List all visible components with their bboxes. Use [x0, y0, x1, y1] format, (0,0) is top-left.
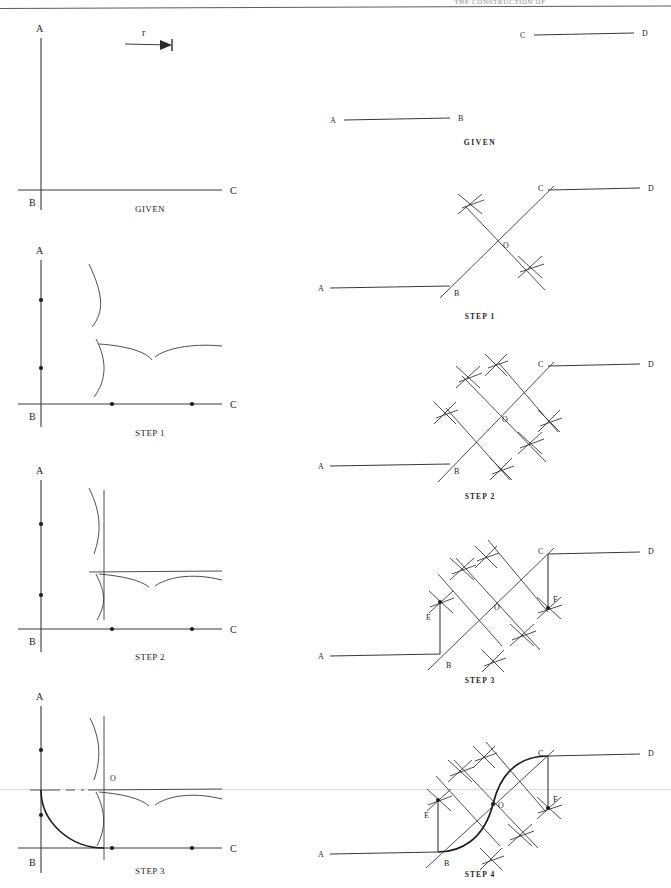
label-B: B: [446, 661, 451, 670]
label-B: B: [29, 636, 36, 647]
label-A: A: [318, 652, 324, 661]
label-B: B: [454, 467, 459, 476]
label-C: C: [538, 184, 543, 193]
figure-left-step3: A B C O: [0, 688, 300, 873]
caption-right-given: GIVEN: [420, 138, 540, 147]
label-B: B: [29, 197, 36, 208]
label-center-O: O: [494, 603, 500, 612]
label-A: A: [330, 116, 336, 125]
figure-left-step2: A B C: [0, 462, 300, 652]
label-D: D: [642, 29, 648, 38]
label-center-O: O: [498, 801, 504, 810]
document-page: THE CONSTRUCTION OF A B C r GIVEN: [0, 0, 671, 888]
label-E: E: [424, 811, 429, 820]
figure-right-step3: A B C D E F O: [310, 520, 671, 675]
label-C: C: [538, 547, 543, 556]
label-B: B: [444, 859, 449, 868]
page-header-rule: [0, 5, 671, 9]
caption-right-step3: STEP 3: [420, 676, 540, 685]
label-E: E: [426, 613, 431, 622]
label-D: D: [648, 547, 654, 556]
figure-left-step1: A B C: [0, 242, 300, 427]
label-C: C: [230, 624, 237, 635]
caption-left-given: GIVEN: [110, 204, 190, 214]
label-A: A: [36, 465, 44, 476]
label-C: C: [520, 31, 525, 40]
label-B: B: [454, 289, 459, 298]
label-A: A: [36, 245, 44, 256]
label-B: B: [29, 857, 36, 868]
figure-right-step2: A B C D O: [310, 340, 671, 490]
caption-left-step1: STEP 1: [110, 428, 190, 438]
label-D: D: [648, 749, 654, 758]
label-A: A: [318, 850, 324, 859]
figure-right-step4: A B C D E F O: [310, 720, 671, 870]
label-C: C: [538, 360, 543, 369]
label-A: A: [318, 284, 324, 293]
figure-left-given: A B C r: [0, 20, 300, 210]
label-C: C: [230, 185, 237, 196]
caption-right-step4: STEP 4: [420, 870, 540, 879]
label-C: C: [230, 843, 237, 854]
label-F: F: [553, 795, 558, 804]
figure-right-given: C D A B: [310, 22, 671, 142]
label-A: A: [36, 691, 44, 702]
caption-right-step1: STEP 1: [420, 312, 540, 321]
label-A: A: [36, 23, 44, 34]
label-D: D: [648, 184, 654, 193]
label-B: B: [458, 114, 463, 123]
caption-left-step2: STEP 2: [110, 652, 190, 662]
label-radius-r: r: [142, 27, 146, 38]
caption-right-step2: STEP 2: [420, 492, 540, 501]
label-F: F: [553, 595, 558, 604]
caption-left-step3: STEP 3: [110, 866, 190, 876]
label-D: D: [648, 360, 654, 369]
label-C: C: [538, 749, 543, 758]
figure-right-step1: A B C D O: [310, 178, 671, 303]
label-center-O: O: [110, 774, 116, 783]
label-C: C: [230, 399, 237, 410]
label-center-O: O: [502, 415, 508, 424]
label-B: B: [29, 411, 36, 422]
label-center-O: O: [503, 241, 509, 250]
label-A: A: [318, 462, 324, 471]
